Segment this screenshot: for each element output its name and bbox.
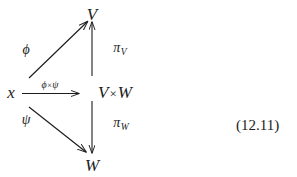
edge-label-phi-times-psi-right: ψ xyxy=(52,79,58,90)
node-v-times-w-right: W xyxy=(118,83,132,102)
edge-label-psi: ψ xyxy=(22,113,31,127)
arrow-psi xyxy=(29,107,86,152)
commutative-diagram-figure: x V V×W W ϕ ϕ×ψ ψ πV πW (12.11) xyxy=(0,0,297,177)
edge-label-pi-v: πV xyxy=(113,41,126,57)
node-w-bottom: W xyxy=(85,157,99,174)
node-v-times-w-operator: × xyxy=(108,86,117,101)
node-v-times-w-left: V xyxy=(98,83,108,102)
arrow-phi xyxy=(29,22,88,79)
edge-label-pi-v-base: π xyxy=(113,40,120,55)
edge-label-pi-w-subscript: W xyxy=(120,122,128,132)
equation-number: (12.11) xyxy=(236,118,279,133)
edge-label-pi-w-base: π xyxy=(113,115,120,130)
edge-label-pi-w: πW xyxy=(113,116,128,132)
edge-label-phi-times-psi: ϕ×ψ xyxy=(41,80,58,90)
edge-label-pi-v-subscript: V xyxy=(120,47,126,57)
node-source-x: x xyxy=(7,84,15,101)
node-v-times-w: V×W xyxy=(98,84,132,101)
edge-label-phi: ϕ xyxy=(22,43,29,57)
node-v-top: V xyxy=(87,6,97,23)
